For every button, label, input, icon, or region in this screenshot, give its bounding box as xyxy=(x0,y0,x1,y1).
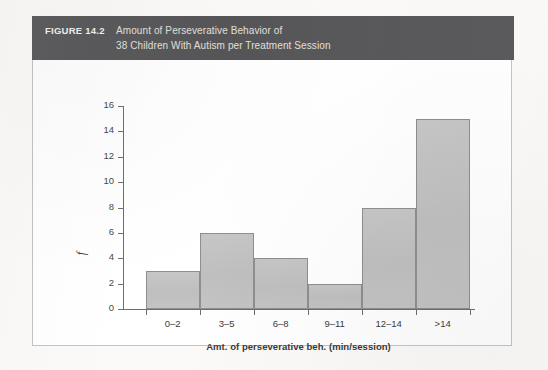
figure-title-line-1: Amount of Perseverative Behavior of xyxy=(116,24,496,39)
y-axis-tick-label: 8 xyxy=(109,201,114,212)
y-axis-tick: 14 xyxy=(118,131,123,132)
x-axis-tick xyxy=(416,309,417,315)
y-axis-tick: 4 xyxy=(118,258,123,259)
plot-area: 0246810121416 0–23–56–89–1112–14>14 xyxy=(123,106,474,309)
x-axis-tick-label: 12–14 xyxy=(362,318,416,329)
x-axis-tick-label: 0–2 xyxy=(146,318,200,329)
bar xyxy=(254,258,308,309)
x-axis-tick-label: >14 xyxy=(416,318,470,329)
bar xyxy=(362,208,416,310)
x-axis-tick xyxy=(308,309,309,315)
y-axis-tick-label: 16 xyxy=(103,99,114,110)
x-axis-label: Amt. of perseverative beh. (min/session) xyxy=(123,341,474,352)
bar xyxy=(146,271,200,309)
y-axis-tick: 10 xyxy=(118,182,123,183)
x-axis-tick xyxy=(362,309,363,315)
x-axis-tick-label: 9–11 xyxy=(308,318,362,329)
y-axis-tick-label: 14 xyxy=(103,124,114,135)
x-axis-tick xyxy=(200,309,201,315)
figure-title-line-2: 38 Children With Autism per Treatment Se… xyxy=(116,39,496,54)
x-axis-tick xyxy=(146,309,147,315)
histogram-chart: f 0246810121416 0–23–56–89–1112–14>14 Am… xyxy=(33,60,513,346)
figure-body: f 0246810121416 0–23–56–89–1112–14>14 Am… xyxy=(32,60,512,346)
figure-title: Amount of Perseverative Behavior of 38 C… xyxy=(116,24,496,53)
y-axis-tick: 6 xyxy=(118,233,123,234)
x-axis-tick xyxy=(254,309,255,315)
x-axis-line xyxy=(123,309,475,310)
figure-card: FIGURE 14.2 Amount of Perseverative Beha… xyxy=(32,16,514,348)
bar xyxy=(308,284,362,309)
figure-number-label: FIGURE 14.2 xyxy=(45,25,105,36)
x-axis-tick-label: 3–5 xyxy=(200,318,254,329)
x-axis-tick xyxy=(470,309,471,315)
y-axis-tick: 8 xyxy=(118,208,123,209)
y-axis-tick: 12 xyxy=(118,157,123,158)
figure-header-bar: FIGURE 14.2 Amount of Perseverative Beha… xyxy=(32,16,514,60)
y-axis-tick: 2 xyxy=(118,284,123,285)
y-axis-tick: 16 xyxy=(118,106,123,107)
y-axis-tick: 0 xyxy=(118,309,123,310)
bar xyxy=(416,119,470,309)
y-axis-line xyxy=(123,106,124,310)
bar xyxy=(200,233,254,309)
y-axis-tick-label: 12 xyxy=(103,150,114,161)
y-axis-tick-label: 4 xyxy=(109,251,114,262)
y-axis-tick-label: 6 xyxy=(109,226,114,237)
y-axis-label: f xyxy=(74,252,89,255)
x-axis-tick-label: 6–8 xyxy=(254,318,308,329)
y-axis-tick-label: 0 xyxy=(109,302,114,313)
y-axis-tick-label: 10 xyxy=(103,175,114,186)
y-axis-tick-label: 2 xyxy=(109,277,114,288)
